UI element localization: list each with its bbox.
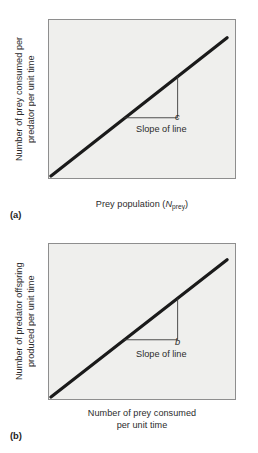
panel-b: Number of predator offspring produced pe… bbox=[0, 230, 258, 453]
panel-b-slope-caption: Slope of line bbox=[136, 349, 187, 359]
panel-b-x-axis-label: Number of prey consumed per unit time bbox=[48, 408, 236, 431]
panel-b-plot-area bbox=[48, 243, 236, 400]
panel-a-plot-area bbox=[48, 19, 236, 179]
panel-a-tag: (a) bbox=[10, 209, 21, 220]
panel-b-tag: (b) bbox=[10, 430, 22, 441]
figure-container: Number of prey consumed per predator per… bbox=[0, 0, 258, 453]
panel-a-slope-symbol: c bbox=[175, 111, 180, 122]
panel-b-slope-symbol: b bbox=[175, 336, 180, 347]
panel-a-x-axis-label: Prey population (Nprey) bbox=[48, 187, 236, 210]
panel-a-slope-caption: Slope of line bbox=[136, 124, 187, 134]
panel-a-x-axis-label-prefix: Prey population ( bbox=[96, 199, 166, 209]
panel-a-x-axis-label-suffix: ) bbox=[185, 199, 188, 209]
panel-b-plot-svg bbox=[49, 244, 235, 399]
panel-a: Number of prey consumed per predator per… bbox=[0, 0, 258, 230]
panel-a-x-axis-label-subscript: prey bbox=[172, 203, 185, 210]
panel-b-y-axis-label: Number of predator offspring produced pe… bbox=[14, 243, 40, 400]
panel-a-plot-svg bbox=[49, 20, 235, 178]
panel-a-y-axis-label: Number of prey consumed per predator per… bbox=[14, 19, 40, 179]
panel-b-response-line bbox=[51, 260, 227, 397]
panel-a-response-line bbox=[51, 38, 227, 176]
